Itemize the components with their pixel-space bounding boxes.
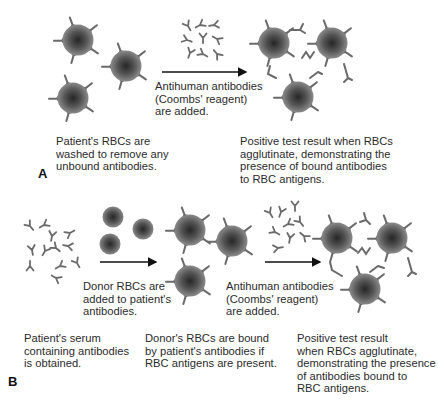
panel-b-result-caption: Positive test result when RBCs agglutina…	[297, 332, 436, 395]
panel-b-step2-caption: Donor's RBCs are bound by patient's anti…	[145, 332, 277, 370]
panel-a-arrow-caption: Antihuman antibodies (Coombs' reagent) a…	[155, 80, 263, 118]
agglutinated-rbcs-a	[250, 19, 355, 122]
donor-rbcs-uncoated	[100, 207, 154, 255]
panel-b-arrow2-caption: Antihuman antibodies (Coombs' reagent) a…	[226, 280, 334, 318]
panel-a-letter: A	[38, 166, 47, 181]
antihuman-antibodies-cluster-b	[265, 202, 310, 253]
panel-a-step1-caption: Patient's RBCs are washed to remove any …	[56, 135, 169, 173]
antihuman-antibodies-cluster-a	[182, 20, 223, 60]
panel-b-arrow1-caption: Donor RBCs are added to patient's antibo…	[83, 280, 171, 318]
panel-b-step1-caption: Patient's serum containing antibodies is…	[24, 332, 129, 370]
patient-serum-antibodies	[24, 220, 82, 284]
panel-a-result-caption: Positive test result when RBCs agglutina…	[240, 135, 393, 185]
patient-rbcs-coated	[49, 16, 149, 123]
panel-b-letter: B	[8, 374, 17, 389]
